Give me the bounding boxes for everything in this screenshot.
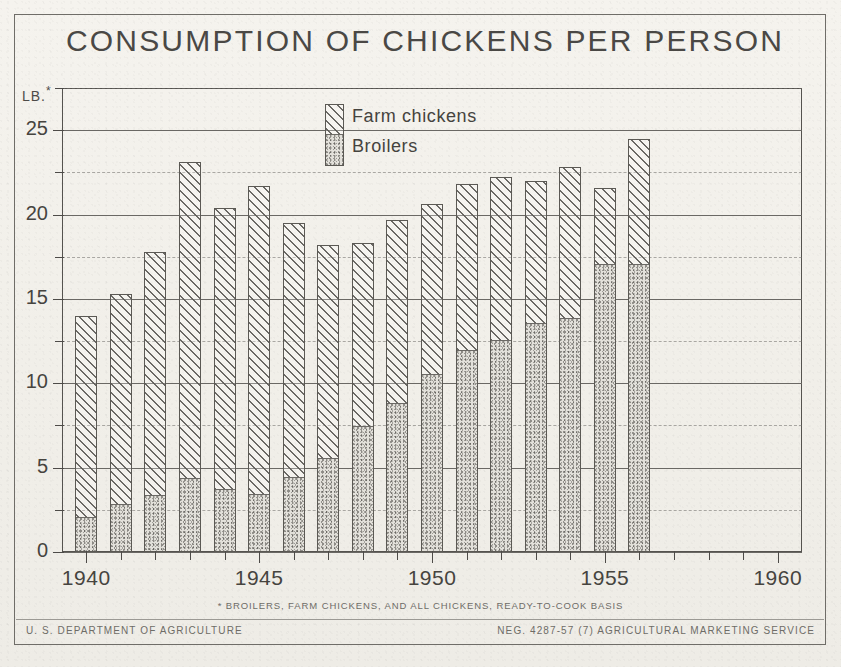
x-axis-label: 1955	[565, 566, 645, 590]
footer-agency: U. S. DEPARTMENT OF AGRICULTURE	[26, 625, 243, 636]
x-tick-minor	[536, 551, 537, 560]
x-tick-minor	[190, 551, 191, 560]
y-tick-major	[53, 552, 64, 553]
bar-segment-broilers-1943	[180, 478, 200, 551]
x-tick-minor	[743, 551, 744, 560]
x-axis-label: 1960	[738, 566, 818, 590]
y-tick-major	[53, 130, 64, 131]
x-tick-major	[778, 551, 779, 563]
y-tick-minor	[55, 341, 64, 342]
bar-1950	[421, 204, 443, 552]
bar-1955	[594, 188, 616, 552]
x-tick-minor	[501, 551, 502, 560]
gridline-minor	[62, 172, 802, 173]
bar-1943	[179, 162, 201, 552]
y-axis-label: 10	[2, 370, 48, 393]
bar-segment-broilers-1945	[249, 494, 269, 551]
bar-1952	[490, 177, 512, 552]
y-axis-unit-label: LB.*	[22, 84, 52, 104]
legend-swatch-broilers	[326, 134, 343, 165]
bar-segment-broilers-1954	[560, 318, 580, 551]
bar-segment-broilers-1946	[284, 477, 304, 551]
bar-segment-broilers-1955	[595, 264, 615, 551]
bar-segment-broilers-1944	[215, 489, 235, 551]
x-tick-minor	[363, 551, 364, 560]
bar-segment-broilers-1952	[491, 340, 511, 551]
x-tick-minor	[121, 551, 122, 560]
bar-segment-broilers-1948	[353, 426, 373, 551]
x-axis-label: 1950	[392, 566, 472, 590]
bar-segment-broilers-1949	[387, 403, 407, 551]
legend-swatch	[325, 104, 344, 166]
y-tick-minor	[55, 510, 64, 511]
x-tick-minor	[639, 551, 640, 560]
y-tick-major	[53, 383, 64, 384]
x-axis-label: 1940	[46, 566, 126, 590]
x-tick-minor	[570, 551, 571, 560]
bar-1945	[248, 186, 270, 552]
x-tick-minor	[294, 551, 295, 560]
y-tick-minor	[55, 425, 64, 426]
chart-sheet: CONSUMPTION OF CHICKENS PER PERSON LB.* …	[0, 0, 841, 667]
bar-segment-broilers-1940	[76, 517, 96, 551]
bar-1949	[386, 220, 408, 552]
y-axis-label: 15	[2, 286, 48, 309]
y-axis-label: 20	[2, 202, 48, 225]
y-axis-unit-text: LB.	[22, 88, 46, 104]
bar-segment-broilers-1953	[526, 323, 546, 551]
bar-segment-broilers-1951	[457, 350, 477, 551]
bar-1954	[559, 167, 581, 552]
x-tick-minor	[467, 551, 468, 560]
bar-segment-broilers-1942	[145, 495, 165, 551]
chart-footnote: * BROILERS, FARM CHICKENS, AND ALL CHICK…	[0, 600, 841, 611]
x-tick-major	[605, 551, 606, 563]
bar-segment-broilers-1947	[318, 458, 338, 551]
gridline-minor	[62, 88, 802, 89]
legend-label-broilers: Broilers	[352, 136, 418, 157]
page-title: CONSUMPTION OF CHICKENS PER PERSON	[60, 24, 790, 58]
bar-segment-broilers-1941	[111, 504, 131, 551]
y-axis-label: 0	[2, 539, 48, 562]
x-tick-minor	[328, 551, 329, 560]
x-tick-minor	[397, 551, 398, 560]
bar-1948	[352, 243, 374, 552]
y-axis-label: 5	[2, 455, 48, 478]
x-tick-minor	[155, 551, 156, 560]
bar-1941	[110, 294, 132, 552]
bar-segment-broilers-1950	[422, 374, 442, 551]
y-tick-minor	[55, 88, 64, 89]
y-tick-major	[53, 299, 64, 300]
y-tick-minor	[55, 172, 64, 173]
footer-credit: NEG. 4287-57 (7) AGRICULTURAL MARKETING …	[497, 625, 815, 636]
bar-1947	[317, 245, 339, 552]
y-axis-unit-marker: *	[46, 84, 52, 98]
x-tick-minor	[225, 551, 226, 560]
bar-1956	[628, 139, 650, 552]
footer-divider	[16, 619, 824, 620]
x-tick-major	[259, 551, 260, 563]
bar-1951	[456, 184, 478, 552]
bar-segment-broilers-1956	[629, 264, 649, 551]
x-tick-major	[432, 551, 433, 563]
legend-label-farm-chickens: Farm chickens	[352, 106, 477, 127]
x-axis-label: 1945	[219, 566, 299, 590]
y-axis-label: 25	[2, 117, 48, 140]
y-tick-major	[53, 215, 64, 216]
bar-1940	[75, 316, 97, 552]
bar-1944	[214, 208, 236, 552]
y-tick-minor	[55, 257, 64, 258]
x-tick-minor	[674, 551, 675, 560]
x-tick-major	[86, 551, 87, 563]
x-tick-minor	[709, 551, 710, 560]
y-tick-major	[53, 468, 64, 469]
bar-1942	[144, 252, 166, 552]
chart-legend: Farm chickens Broilers	[325, 104, 555, 170]
bar-1953	[525, 181, 547, 552]
bar-1946	[283, 223, 305, 552]
